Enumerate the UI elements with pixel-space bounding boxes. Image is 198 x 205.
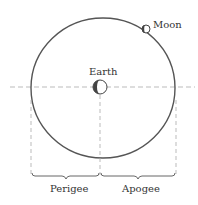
- apogee-label: Apogee: [121, 183, 160, 194]
- earth-icon: [93, 80, 107, 94]
- perigee-brace: [32, 173, 99, 179]
- moon-icon: [142, 25, 150, 33]
- moon-label: Moon: [153, 19, 182, 30]
- orbit-diagram: Moon Earth Perigee Apogee: [0, 0, 198, 205]
- earth-label: Earth: [89, 66, 118, 77]
- perigee-label: Perigee: [50, 183, 88, 194]
- apogee-brace: [101, 173, 175, 179]
